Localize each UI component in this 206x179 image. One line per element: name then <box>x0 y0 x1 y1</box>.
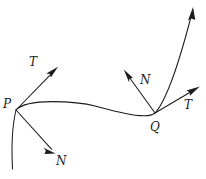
normal-vector-at-p-arrowhead <box>43 148 55 154</box>
point-label-q: Q <box>150 121 160 133</box>
normal-vector-at-p-line <box>16 110 52 149</box>
main-curve-path <box>12 18 191 170</box>
point-label-p: P <box>3 98 11 110</box>
curve-diagram: P Q T N N T <box>0 0 206 179</box>
vector-label-normal-at-p: N <box>56 155 67 167</box>
vector-label-tangent-at-p: T <box>29 56 37 68</box>
tangent-vector-at-q-arrowhead <box>186 87 199 96</box>
curve-terminal-arrowhead <box>188 7 195 21</box>
vector-label-tangent-at-q: T <box>184 99 192 111</box>
tangent-vector-at-p-arrowhead <box>46 67 58 78</box>
vector-label-normal-at-q: N <box>140 74 151 86</box>
tangent-vector-at-p-line <box>16 71 54 110</box>
diagram-canvas <box>0 0 206 179</box>
